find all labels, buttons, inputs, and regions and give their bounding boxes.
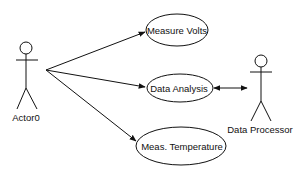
edge-actor0-data-analysis bbox=[46, 70, 145, 87]
edge-actor0-meas-temperature bbox=[46, 70, 136, 141]
use-case-meas-temperature[interactable]: Meas. Temperature bbox=[136, 127, 226, 165]
use-case-label: Data Analysis bbox=[150, 83, 208, 94]
use-case-diagram: Actor0 Measure Volts Data Analysis Meas.… bbox=[0, 0, 301, 175]
use-case-label: Meas. Temperature bbox=[141, 141, 223, 152]
actor-head-icon bbox=[255, 55, 267, 67]
actor-data-processor[interactable]: Data Processor bbox=[227, 55, 292, 135]
use-case-label: Measure Volts bbox=[147, 25, 207, 36]
actor-actor0[interactable]: Actor0 bbox=[12, 42, 39, 123]
actor-label: Actor0 bbox=[12, 112, 39, 123]
use-case-data-analysis[interactable]: Data Analysis bbox=[147, 74, 213, 102]
actor-label: Data Processor bbox=[227, 124, 292, 135]
use-case-measure-volts[interactable]: Measure Volts bbox=[146, 14, 208, 46]
edge-actor0-measure-volts bbox=[46, 32, 145, 70]
actor-head-icon bbox=[20, 42, 32, 54]
